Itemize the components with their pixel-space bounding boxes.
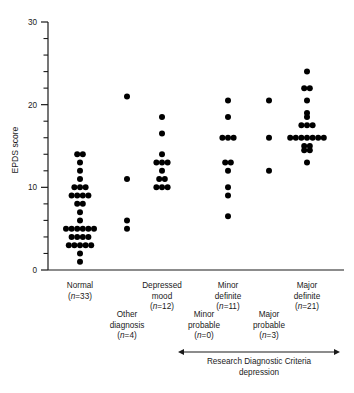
data-point bbox=[77, 259, 83, 265]
data-point bbox=[80, 226, 86, 232]
data-point bbox=[77, 168, 83, 174]
data-point bbox=[74, 226, 80, 232]
data-point bbox=[225, 98, 231, 104]
category-label-other-diagnosis: diagnosis bbox=[110, 321, 145, 330]
data-point bbox=[77, 176, 83, 182]
data-point bbox=[124, 217, 130, 223]
data-point bbox=[159, 114, 165, 120]
data-point bbox=[153, 160, 159, 166]
data-point bbox=[315, 135, 321, 141]
data-point bbox=[69, 226, 75, 232]
category-n-normal: (n=33) bbox=[68, 292, 92, 301]
data-point bbox=[80, 234, 86, 240]
data-point bbox=[85, 226, 91, 232]
data-point bbox=[159, 131, 165, 137]
category-n-minor-definite: (n=11) bbox=[216, 302, 240, 311]
data-point bbox=[77, 160, 83, 166]
data-point bbox=[293, 135, 299, 141]
scatter-plot-svg: 0102030 EPDS score Normal(n=33)Otherdiag… bbox=[0, 0, 354, 393]
data-point bbox=[74, 193, 80, 199]
data-point bbox=[77, 217, 83, 223]
rdc-arrow-head-left bbox=[178, 349, 184, 355]
data-point bbox=[69, 234, 75, 240]
data-point bbox=[307, 147, 313, 153]
category-n-other-diagnosis: (n=4) bbox=[117, 331, 137, 340]
data-point bbox=[165, 184, 171, 190]
data-point bbox=[321, 135, 327, 141]
data-point bbox=[159, 184, 165, 190]
category-label-minor-definite: definite bbox=[215, 292, 242, 301]
data-point bbox=[91, 226, 97, 232]
category-label-major-probable: probable bbox=[253, 321, 285, 330]
data-point bbox=[77, 184, 83, 190]
data-point bbox=[266, 98, 272, 104]
data-point bbox=[266, 168, 272, 174]
data-point bbox=[310, 135, 316, 141]
data-point bbox=[225, 168, 231, 174]
data-point bbox=[298, 122, 304, 128]
data-point bbox=[66, 242, 72, 248]
data-point bbox=[69, 193, 75, 199]
category-label-minor-definite: Minor bbox=[218, 281, 239, 290]
data-point bbox=[304, 122, 310, 128]
data-point bbox=[85, 193, 91, 199]
data-point bbox=[310, 122, 316, 128]
category-labels: Normal(n=33)Otherdiagnosis(n=4)Depressed… bbox=[67, 281, 321, 340]
data-point bbox=[80, 193, 86, 199]
data-point bbox=[85, 234, 91, 240]
data-point bbox=[77, 250, 83, 256]
data-point bbox=[124, 176, 130, 182]
rdc-annotation-line1: Research Diagnostic Criteria bbox=[207, 357, 312, 366]
data-point bbox=[153, 184, 159, 190]
y-axis bbox=[41, 22, 344, 270]
data-point bbox=[80, 201, 86, 207]
data-point bbox=[287, 135, 293, 141]
category-label-depressed-mood: mood bbox=[152, 292, 173, 301]
data-point bbox=[228, 160, 234, 166]
data-point bbox=[222, 160, 228, 166]
data-point bbox=[225, 135, 231, 141]
category-label-minor-probable: probable bbox=[188, 321, 220, 330]
category-label-minor-probable: Minor bbox=[194, 310, 215, 319]
category-label-other-diagnosis: Other bbox=[117, 310, 138, 319]
category-n-major-probable: (n=3) bbox=[259, 331, 279, 340]
data-point bbox=[162, 176, 168, 182]
data-point bbox=[63, 226, 69, 232]
y-tick-label: 20 bbox=[28, 101, 38, 110]
data-point bbox=[304, 114, 310, 120]
data-point bbox=[71, 184, 77, 190]
data-point bbox=[301, 85, 307, 91]
y-tick-label: 0 bbox=[32, 266, 37, 275]
category-label-major-definite: definite bbox=[294, 292, 321, 301]
data-point bbox=[304, 135, 310, 141]
data-point bbox=[304, 98, 310, 104]
data-point bbox=[225, 114, 231, 120]
category-label-major-probable: Major bbox=[259, 310, 280, 319]
y-axis-tick-labels: 0102030 bbox=[28, 18, 38, 275]
category-n-depressed-mood: (n=12) bbox=[150, 302, 174, 311]
data-point bbox=[88, 242, 94, 248]
data-point bbox=[74, 151, 80, 157]
data-point bbox=[266, 135, 272, 141]
data-point bbox=[165, 160, 171, 166]
y-tick-label: 30 bbox=[28, 18, 38, 27]
data-point bbox=[156, 176, 162, 182]
data-points bbox=[63, 69, 327, 265]
rdc-annotation: Research Diagnostic Criteriadepression bbox=[178, 349, 340, 377]
data-point bbox=[159, 168, 165, 174]
data-point bbox=[307, 85, 313, 91]
data-point bbox=[304, 69, 310, 75]
data-point bbox=[77, 209, 83, 215]
data-point bbox=[124, 226, 130, 232]
y-tick-label: 10 bbox=[28, 183, 38, 192]
category-n-minor-probable: (n=0) bbox=[194, 331, 214, 340]
data-point bbox=[304, 160, 310, 166]
data-point bbox=[74, 201, 80, 207]
category-label-major-definite: Major bbox=[297, 281, 318, 290]
data-point bbox=[301, 147, 307, 153]
rdc-annotation-line2: depression bbox=[239, 368, 280, 377]
category-label-normal: Normal bbox=[67, 281, 94, 290]
data-point bbox=[231, 135, 237, 141]
data-point bbox=[83, 242, 89, 248]
data-point bbox=[77, 242, 83, 248]
